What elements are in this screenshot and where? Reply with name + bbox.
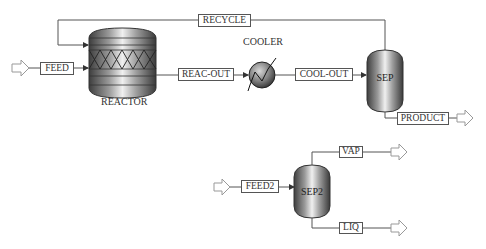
stream-label-feed2[interactable]: FEED2 [241,180,279,193]
sep-label: SEP [367,70,403,84]
cooler-label: COOLER [243,37,283,47]
product-outlet-arrow-icon[interactable] [457,110,473,126]
cooler-exchanger[interactable] [248,58,276,91]
liq-outlet-arrow-icon[interactable] [391,220,407,236]
stream-label-reac-out[interactable]: REAC-OUT [178,68,234,81]
feed2-inlet-arrow-icon[interactable] [214,179,230,195]
stream-label-cool-out[interactable]: COOL-OUT [295,68,353,81]
reactor-vessel[interactable] [89,28,156,98]
stream-label-vap[interactable]: VAP [339,146,363,158]
liq-stream-line[interactable] [312,218,339,228]
stream-label-liq[interactable]: LIQ [339,222,363,234]
vap-stream-line[interactable] [312,152,339,165]
stream-label-product[interactable]: PRODUCT [397,112,449,125]
stream-label-feed[interactable]: FEED [40,62,74,75]
stream-label-recycle[interactable]: RECYCLE [198,14,251,27]
sep2-label: SEP2 [294,184,330,198]
vap-outlet-arrow-icon[interactable] [391,144,407,160]
reactor-label: REACTOR [101,97,148,107]
product-stream-line[interactable] [385,112,397,118]
feed-inlet-arrow-icon[interactable] [12,60,29,76]
